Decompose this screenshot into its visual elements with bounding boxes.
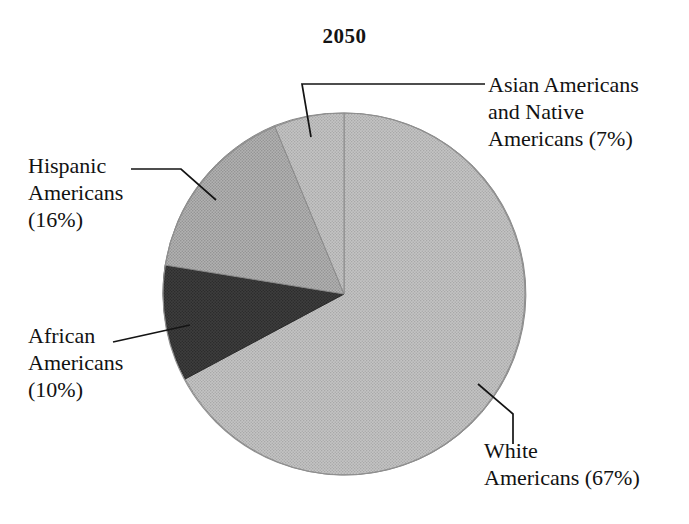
pie-label-asian-native-americans: Asian Americans and Native Americans (7%… [488,71,684,152]
pie-chart-figure: 2050 [0,0,689,524]
pie-label-white-americans: White Americans (67%) [484,437,689,491]
pie-label-african-americans: African Americans (10%) [28,322,208,403]
pie-label-hispanic-americans: Hispanic Americans (16%) [28,152,218,233]
